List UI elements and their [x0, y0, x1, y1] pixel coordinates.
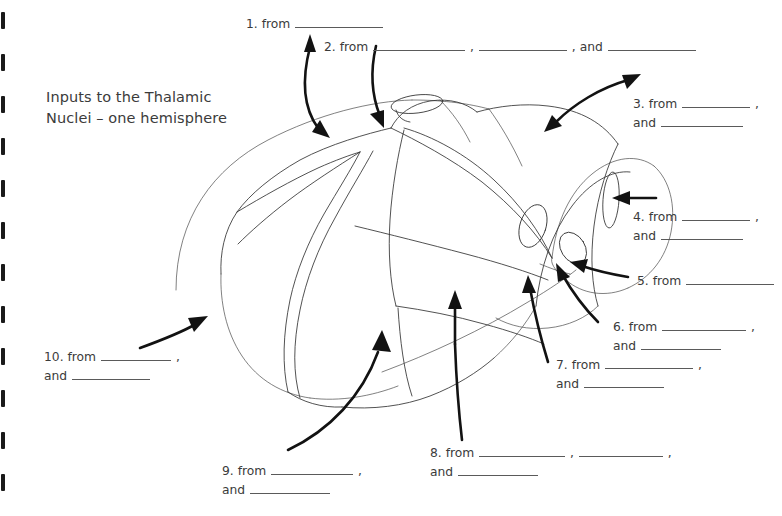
label-4-blank[interactable]	[682, 209, 750, 221]
label-5-text: 5. from	[637, 274, 685, 288]
label-8[interactable]: 8. from , ,and	[430, 444, 672, 481]
label-7-text: and	[556, 377, 583, 391]
label-1-blank[interactable]	[295, 16, 383, 28]
label-8-text: 8. from	[430, 446, 478, 460]
label-6-text: ,	[747, 320, 755, 334]
label-4-line-1: 4. from ,	[633, 208, 759, 227]
label-3-text: 3. from	[633, 97, 681, 111]
label-8-blank[interactable]	[458, 464, 538, 476]
label-2[interactable]: 2. from , , and	[324, 38, 697, 57]
label-2-text: 2. from	[324, 40, 372, 54]
label-9[interactable]: 9. from ,and	[222, 462, 362, 499]
label-3-blank[interactable]	[682, 96, 750, 108]
label-4[interactable]: 4. from ,and	[633, 208, 759, 245]
label-9-blank[interactable]	[250, 482, 330, 494]
label-6-line-2: and	[613, 337, 755, 356]
label-6-blank[interactable]	[641, 338, 721, 350]
label-1-line-1: 1. from	[246, 15, 384, 34]
label-10-text: ,	[172, 350, 180, 364]
label-8-line-1: 8. from , ,	[430, 444, 672, 463]
label-7-text: ,	[694, 358, 702, 372]
label-2-text: ,	[466, 40, 478, 54]
label-1-text: 1. from	[246, 17, 294, 31]
label-7-blank[interactable]	[584, 376, 664, 388]
label-7-blank[interactable]	[605, 357, 693, 369]
label-3-line-1: 3. from ,	[633, 95, 759, 114]
label-3-text: and	[633, 116, 660, 130]
arrow-layer	[0, 0, 782, 516]
label-9-line-2: and	[222, 481, 362, 500]
label-8-text: ,	[566, 446, 578, 460]
label-6-line-1: 6. from ,	[613, 318, 755, 337]
label-7-line-1: 7. from ,	[556, 356, 702, 375]
label-10-line-2: and	[44, 367, 180, 386]
label-2-text: , and	[568, 40, 607, 54]
label-9-text: ,	[354, 464, 362, 478]
label-9-text: 9. from	[222, 464, 270, 478]
label-7-line-2: and	[556, 375, 702, 394]
label-10-blank[interactable]	[72, 368, 150, 380]
label-5-blank[interactable]	[686, 273, 774, 285]
label-8-line-2: and	[430, 463, 672, 482]
label-10-text: 10. from	[44, 350, 100, 364]
label-2-blank[interactable]	[479, 39, 567, 51]
label-9-text: and	[222, 483, 249, 497]
label-10-blank[interactable]	[101, 349, 171, 361]
label-3-line-2: and	[633, 114, 759, 133]
label-3[interactable]: 3. from ,and	[633, 95, 759, 132]
label-10-line-1: 10. from ,	[44, 348, 180, 367]
label-4-line-2: and	[633, 227, 759, 246]
label-6[interactable]: 6. from ,and	[613, 318, 755, 355]
label-5-line-1: 5. from	[637, 272, 775, 291]
label-8-blank[interactable]	[479, 445, 565, 457]
label-7[interactable]: 7. from ,and	[556, 356, 702, 393]
label-3-text: ,	[751, 97, 759, 111]
worksheet-page: Inputs to the Thalamic Nuclei – one hemi…	[0, 0, 782, 516]
label-3-blank[interactable]	[661, 115, 743, 127]
label-5[interactable]: 5. from	[637, 272, 775, 291]
label-2-line-1: 2. from , , and	[324, 38, 697, 57]
label-9-line-1: 9. from ,	[222, 462, 362, 481]
label-2-blank[interactable]	[608, 39, 696, 51]
label-7-text: 7. from	[556, 358, 604, 372]
label-9-blank[interactable]	[271, 463, 353, 475]
page-title: Inputs to the Thalamic Nuclei – one hemi…	[46, 87, 276, 129]
label-4-text: ,	[751, 210, 759, 224]
label-1[interactable]: 1. from	[246, 15, 384, 34]
label-10-text: and	[44, 369, 71, 383]
label-4-text: 4. from	[633, 210, 681, 224]
label-6-blank[interactable]	[662, 319, 746, 331]
label-8-blank[interactable]	[579, 445, 663, 457]
label-4-blank[interactable]	[661, 228, 743, 240]
label-4-text: and	[633, 229, 660, 243]
label-6-text: 6. from	[613, 320, 661, 334]
label-10[interactable]: 10. from ,and	[44, 348, 180, 385]
label-2-blank[interactable]	[373, 39, 465, 51]
label-8-text: ,	[664, 446, 672, 460]
label-6-text: and	[613, 339, 640, 353]
label-8-text: and	[430, 465, 457, 479]
